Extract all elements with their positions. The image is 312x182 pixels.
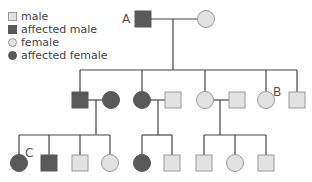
- affected-female-symbol: [134, 92, 151, 109]
- pedigree-lines: [19, 19, 297, 163]
- male-symbol: [165, 92, 181, 108]
- label-c: C: [25, 146, 33, 160]
- affected-male-symbol: [72, 92, 88, 108]
- female-symbol: [102, 155, 119, 172]
- label-a: A: [122, 12, 130, 26]
- female-symbol: [198, 11, 215, 28]
- pedigree-symbols: [11, 11, 306, 172]
- male-symbol: [289, 92, 305, 108]
- female-symbol: [258, 92, 275, 109]
- male-symbol: [164, 155, 180, 171]
- affected-female-symbol: [134, 155, 151, 172]
- male-symbol: [229, 92, 245, 108]
- female-symbol: [227, 155, 244, 172]
- affected-female-symbol: [103, 92, 120, 109]
- female-symbol: [197, 92, 214, 109]
- label-b: B: [273, 85, 281, 99]
- pedigree-chart: [0, 0, 312, 182]
- affected-male-symbol: [41, 155, 57, 171]
- male-symbol: [258, 155, 274, 171]
- male-symbol: [196, 155, 212, 171]
- affected-male-symbol: [135, 11, 151, 27]
- male-symbol: [72, 155, 88, 171]
